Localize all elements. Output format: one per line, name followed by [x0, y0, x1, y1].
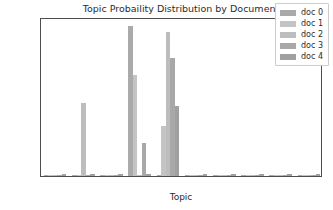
legend-label: doc 4: [301, 52, 323, 61]
bar: [316, 174, 321, 176]
legend-label: doc 1: [301, 19, 323, 28]
x-axis-title: Topic: [40, 192, 322, 202]
x-axis-tick: [55, 176, 56, 177]
x-axis-tick: [253, 176, 254, 177]
x-axis-tick: [140, 176, 141, 177]
y-axis-tick: [40, 114, 41, 115]
x-axis-tick: [112, 176, 113, 177]
bar: [133, 75, 138, 176]
legend: doc 0doc 1doc 2doc 3doc 4: [275, 3, 329, 66]
legend-item[interactable]: doc 3: [280, 40, 323, 51]
bar: [175, 106, 180, 176]
y-axis-tick: [40, 146, 41, 147]
bar: [146, 174, 151, 176]
x-axis-tick: [224, 176, 225, 177]
legend-swatch: [280, 10, 296, 16]
legend-label: doc 2: [301, 30, 323, 39]
legend-label: doc 0: [301, 8, 323, 17]
x-axis-tick: [309, 176, 310, 177]
legend-label: doc 3: [301, 41, 323, 50]
bar: [90, 174, 95, 176]
legend-swatch: [280, 54, 296, 60]
bar: [62, 174, 67, 176]
x-axis-tick: [168, 176, 169, 177]
chart-figure: Topic Probaility Distribution by Documen…: [0, 0, 333, 210]
legend-item[interactable]: doc 4: [280, 51, 323, 62]
y-axis-tick: [40, 51, 41, 52]
x-axis-tick: [83, 176, 84, 177]
bar: [118, 174, 123, 176]
bar: [287, 174, 292, 176]
legend-item[interactable]: doc 0: [280, 7, 323, 18]
legend-item[interactable]: doc 1: [280, 18, 323, 29]
x-axis-tick: [196, 176, 197, 177]
bar: [142, 143, 147, 176]
legend-item[interactable]: doc 2: [280, 29, 323, 40]
bar: [231, 174, 236, 176]
bar: [81, 103, 86, 176]
bar: [203, 174, 208, 176]
legend-swatch: [280, 43, 296, 49]
x-axis-tick: [281, 176, 282, 177]
bar: [259, 174, 264, 176]
legend-swatch: [280, 32, 296, 38]
legend-swatch: [280, 21, 296, 27]
y-axis-tick: [40, 83, 41, 84]
